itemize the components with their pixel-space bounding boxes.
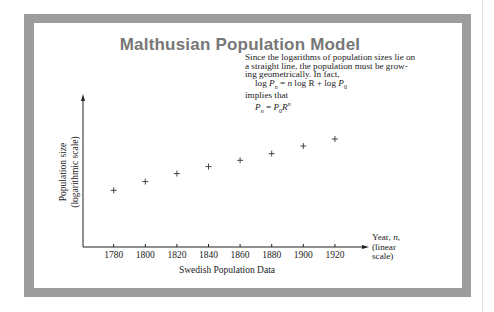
x-axis-label: Year, n, (linear scale) (372, 233, 400, 262)
plus-marker-icon (269, 151, 275, 157)
x-tick-label: 1780 (104, 250, 123, 260)
x-tick-label: 1800 (136, 250, 155, 260)
data-points (111, 136, 338, 193)
x-tick-label: 1900 (294, 250, 313, 260)
plus-marker-icon (300, 143, 306, 149)
x-tick-label: 1920 (325, 250, 344, 260)
plus-marker-icon (332, 136, 338, 142)
plus-marker-icon (142, 179, 148, 185)
x-tick-label: 1840 (199, 250, 218, 260)
plus-marker-icon (237, 157, 243, 163)
x-tick-label: 1860 (231, 250, 250, 260)
plus-marker-icon (206, 164, 212, 170)
x-axis-title: Swedish Population Data (179, 265, 275, 275)
x-tick-label: 1880 (262, 250, 281, 260)
y-axis-label: Population size (logarithmic scale) (57, 136, 81, 207)
plus-marker-icon (174, 171, 180, 177)
x-tick-label: 1820 (167, 250, 186, 260)
y-axis-arrow-icon (81, 94, 85, 101)
plus-marker-icon (111, 187, 117, 193)
x-axis-arrow-icon (362, 245, 369, 249)
